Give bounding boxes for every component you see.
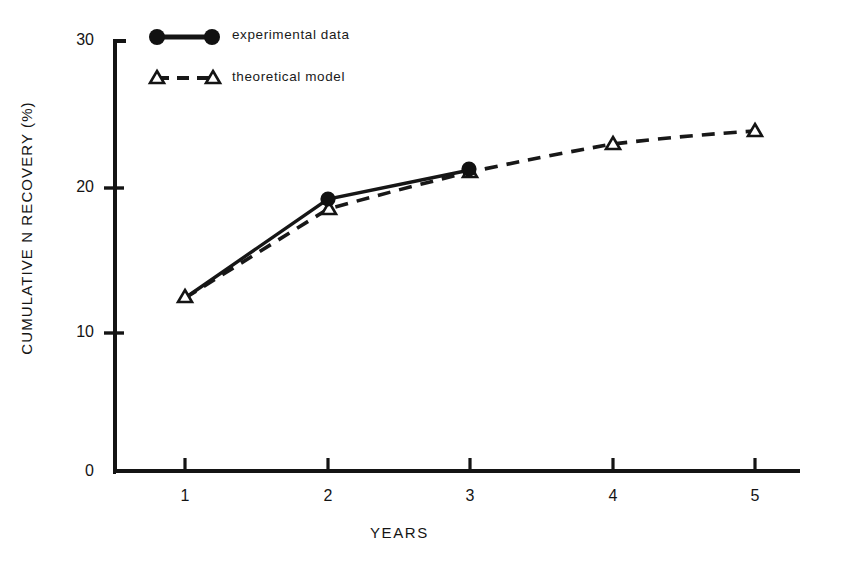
legend-swatch-theoretical-model [150, 71, 220, 83]
marker-theoretical-year-1 [178, 290, 192, 302]
marker-experimental-year-2 [320, 191, 335, 206]
plot-area [0, 0, 855, 562]
legend-marker-filled-circle-right [204, 29, 220, 45]
legend-swatch-experimental-data [149, 29, 220, 45]
legend-marker-filled-circle-left [149, 29, 165, 45]
legend-marker-open-triangle-left [150, 71, 164, 83]
series-line-experimental-data [185, 170, 470, 298]
y-axis-line [115, 41, 126, 472]
chart-figure: CUMULATIVE N RECOVERY (%) YEARS 30 20 10… [0, 0, 855, 562]
marker-experimental-year-3 [461, 161, 476, 176]
marker-theoretical-year-4 [606, 137, 620, 149]
marker-group-theoretical-model [178, 124, 762, 302]
series-line-theoretical-model [185, 131, 755, 298]
legend-marker-open-triangle-right [206, 71, 220, 83]
marker-theoretical-year-5 [748, 124, 762, 136]
